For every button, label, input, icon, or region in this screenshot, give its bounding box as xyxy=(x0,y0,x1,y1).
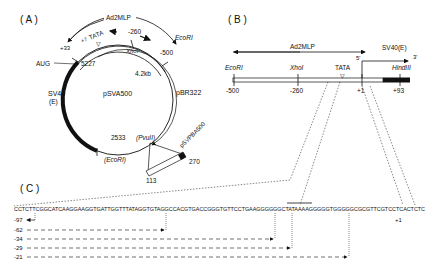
svg-text:+7: +7 xyxy=(80,36,88,44)
ecori-bottom-label: (EcoRI) xyxy=(104,156,126,164)
svg-text:+1: +1 xyxy=(395,217,403,223)
plasmid-name: pSVA500 xyxy=(103,90,132,98)
sv40-label: SV40 xyxy=(48,90,65,97)
panel-c-label: ( C ) xyxy=(20,183,39,194)
insert-pSVPBA500: pSVPBA500 270 113 xyxy=(146,120,207,184)
sv40-bar xyxy=(383,78,410,83)
aug-label: AUG xyxy=(36,60,50,67)
svg-text:(E): (E) xyxy=(49,98,58,106)
svg-text:+1: +1 xyxy=(357,87,365,94)
svg-text:-260: -260 xyxy=(128,28,141,35)
svg-text:270: 270 xyxy=(189,158,200,165)
svg-text:-500: -500 xyxy=(160,49,173,56)
pbr322-label: pBR322 xyxy=(176,89,201,97)
panel-b-label: ( B ) xyxy=(228,14,247,25)
svg-text:-260: -260 xyxy=(290,87,303,94)
sv40-region xyxy=(63,62,97,151)
promoter-bar xyxy=(233,78,383,82)
xhoi-label: XhoI xyxy=(125,48,139,54)
svg-text:113: 113 xyxy=(146,177,157,184)
svg-text:5': 5' xyxy=(356,55,360,61)
svg-text:▽: ▽ xyxy=(96,41,101,47)
svg-text:2533: 2533 xyxy=(111,134,126,141)
svg-text:5227: 5227 xyxy=(81,60,96,67)
svg-text:-97: -97 xyxy=(14,217,23,223)
svg-text:-21: -21 xyxy=(14,254,23,260)
panel-b: ( B ) Ad2MLP SV40(E) 5' 3' EcoRI XhoI TA… xyxy=(14,14,417,206)
svg-text:-62: -62 xyxy=(14,227,23,233)
panel-c: ( C ) CCTCTTCGGCATCAAGGAAGGTGATTGGTTTATA… xyxy=(14,183,425,260)
ecori-label: EcoRI xyxy=(175,34,193,41)
svg-text:SV40(E): SV40(E) xyxy=(382,44,407,52)
promoter-diagram: ( A ) Ad2MLP +33 +7 TATA ▽ -260 XhoI Eco… xyxy=(0,0,434,265)
pvuii-label: (PvuII) xyxy=(136,134,155,142)
panel-a-label: ( A ) xyxy=(20,14,38,25)
svg-text:+93: +93 xyxy=(393,87,404,94)
svg-text:HindIII: HindIII xyxy=(392,64,411,71)
size-label: 4.2kb xyxy=(135,70,151,77)
svg-text:Ad2MLP: Ad2MLP xyxy=(290,43,315,50)
svg-text:XhoI: XhoI xyxy=(289,64,304,71)
tata-label: TATA xyxy=(88,29,105,41)
svg-text:3': 3' xyxy=(413,54,417,60)
svg-text:TATA: TATA xyxy=(335,64,351,71)
svg-text:+33: +33 xyxy=(60,45,71,51)
svg-text:▽: ▽ xyxy=(340,73,345,79)
svg-text:-29: -29 xyxy=(14,245,23,251)
ad2mlp-label: Ad2MLP xyxy=(106,14,131,21)
svg-text:EcoRI: EcoRI xyxy=(225,64,243,71)
panel-a: ( A ) Ad2MLP +33 +7 TATA ▽ -260 XhoI Eco… xyxy=(20,12,207,184)
svg-text:-500: -500 xyxy=(226,87,239,94)
svg-text:-34: -34 xyxy=(14,236,23,242)
svg-text:pSVPBA500: pSVPBA500 xyxy=(178,120,206,148)
dna-sequence: CCTCTTCGGCATCAAGGAAGGTGATTGGTTTATAGGTGTA… xyxy=(14,206,425,212)
